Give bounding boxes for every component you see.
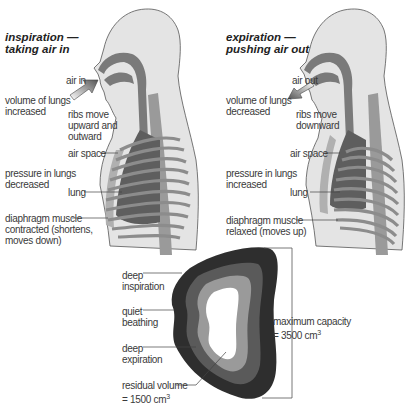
- expiration-volume-label: volume of lungs decreased: [226, 95, 292, 117]
- inspiration-diaphragm-label: diaphragm muscle contracted (shortens, m…: [5, 213, 93, 246]
- maximum-capacity-text: maximum capacity = 3500 cm: [273, 316, 351, 341]
- respiration-diagram: [0, 0, 406, 409]
- expiration-ribs-label: ribs move downward: [296, 109, 339, 131]
- maximum-capacity-label: maximum capacity = 3500 cm3: [273, 316, 351, 341]
- residual-volume-text: residual volume = 1500 cm: [122, 380, 188, 405]
- expiration-air-space-label: air space: [290, 148, 328, 159]
- quiet-breathing-label: quiet beathing: [122, 306, 158, 328]
- residual-volume-label: residual volume = 1500 cm3: [122, 380, 188, 405]
- air-out-label: air out: [292, 75, 318, 86]
- inspiration-lung-label: lung: [68, 187, 86, 198]
- expiration-lung-label: lung: [290, 187, 308, 198]
- expiration-title-line2: pushing air out: [226, 43, 309, 56]
- residual-volume-exponent: 3: [166, 393, 170, 400]
- air-in-label: air in: [66, 75, 86, 86]
- inspiration-volume-label: volume of lungs increased: [5, 95, 71, 117]
- expiration-pressure-label: pressure in lungs increased: [226, 168, 297, 190]
- expiration-diaphragm-label: diaphragm muscle relaxed (moves up): [226, 215, 306, 237]
- inspiration-pressure-label: pressure in lungs decreased: [5, 168, 76, 190]
- maximum-capacity-exponent: 3: [317, 329, 321, 336]
- inspiration-title-line2: taking air in: [5, 43, 70, 56]
- deep-expiration-label: deep expiration: [122, 343, 162, 365]
- inspiration-ribs-label: ribs move upward and outward: [68, 109, 117, 142]
- lung-capacity-shape: [143, 247, 292, 399]
- deep-inspiration-label: deep inspiration: [122, 270, 164, 292]
- inspiration-air-space-label: air space: [68, 148, 106, 159]
